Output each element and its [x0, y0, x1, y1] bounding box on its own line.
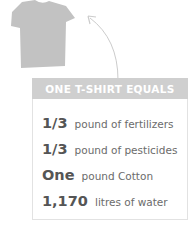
- fact-description: pound of fertilizers: [75, 118, 174, 130]
- fact-item: 1/3 pound of fertilizers: [42, 113, 174, 132]
- header-band: ONE T-SHIRT EQUALS: [32, 78, 188, 99]
- fact-amount: 1,170: [42, 193, 88, 209]
- fact-description: pound Cotton: [82, 170, 153, 182]
- fact-amount: One: [42, 167, 74, 183]
- facts-box: 1/3 pound of fertilizers 1/3 pound of pe…: [32, 99, 188, 220]
- fact-item: 1/3 pound of pesticides: [42, 139, 177, 158]
- tshirt-icon: [8, 0, 76, 70]
- fact-amount: 1/3: [42, 141, 67, 157]
- fact-item: 1,170 litres of water: [42, 191, 168, 210]
- header-title: ONE T-SHIRT EQUALS: [45, 83, 174, 95]
- fact-description: pound of pesticides: [75, 144, 178, 156]
- curved-arrow-icon: [80, 4, 130, 82]
- fact-item: One pound Cotton: [42, 165, 153, 184]
- fact-amount: 1/3: [42, 115, 67, 131]
- fact-description: litres of water: [95, 196, 168, 208]
